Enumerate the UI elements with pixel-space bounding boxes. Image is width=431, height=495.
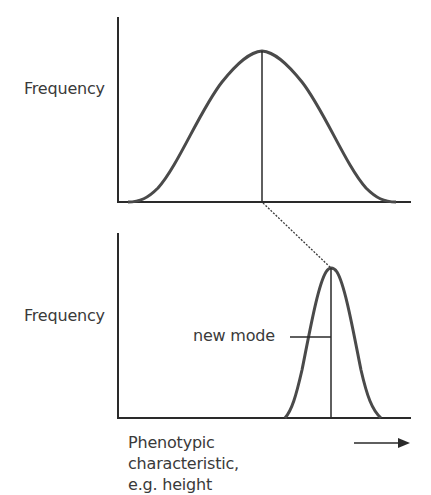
x-axis-label: Phenotypic characteristic, e.g. height <box>128 432 328 495</box>
mode-shift-connector <box>263 203 331 268</box>
right-arrow-icon <box>398 438 410 448</box>
new-mode-label: new mode <box>193 326 275 345</box>
top-y-axis-label: Frequency <box>24 79 105 98</box>
x-axis-label-line1: Phenotypic characteristic, <box>128 433 239 473</box>
x-axis-label-line2: e.g. height <box>128 475 212 494</box>
bottom-distribution-curve <box>285 268 381 418</box>
bottom-y-axis-label: Frequency <box>24 306 105 325</box>
